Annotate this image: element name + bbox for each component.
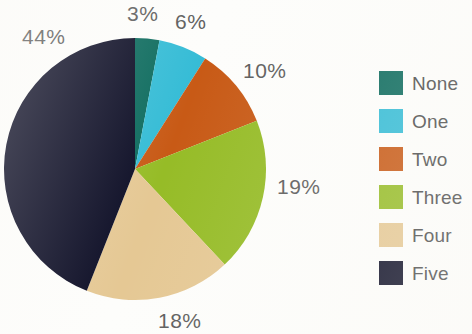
pie-chart-figure: 44% 3% 6% 10% 19% 18% NoneOneTwoThreeFou… [0,0,472,334]
legend-swatch-icon [379,261,403,285]
slice-label-five: 44% [22,26,66,47]
legend-item-label: Three [412,188,463,207]
slice-label-two: 10% [243,60,287,81]
legend-item-three[interactable]: Three [379,178,472,216]
legend-item-none[interactable]: None [379,64,472,102]
slice-label-none: 3% [127,3,158,24]
legend-swatch-icon [379,71,403,95]
legend-item-one[interactable]: One [379,102,472,140]
pie-svg [0,0,340,334]
legend-swatch-icon [379,185,403,209]
legend-item-four[interactable]: Four [379,216,472,254]
legend-item-five[interactable]: Five [379,254,472,292]
legend-item-label: Four [412,226,452,245]
legend-item-label: Five [412,264,449,283]
slice-label-four: 18% [158,310,202,331]
pie-plot-area: 44% 3% 6% 10% 19% 18% [0,0,340,334]
legend-item-label: None [412,74,458,93]
legend-swatch-icon [379,109,403,133]
slice-label-three: 19% [277,176,321,197]
slice-label-one: 6% [175,11,206,32]
legend-item-label: Two [412,150,447,169]
legend-item-label: One [412,112,449,131]
legend: NoneOneTwoThreeFourFive [379,64,472,292]
legend-swatch-icon [379,223,403,247]
pie-slice-group [4,38,266,300]
legend-item-two[interactable]: Two [379,140,472,178]
legend-swatch-icon [379,147,403,171]
